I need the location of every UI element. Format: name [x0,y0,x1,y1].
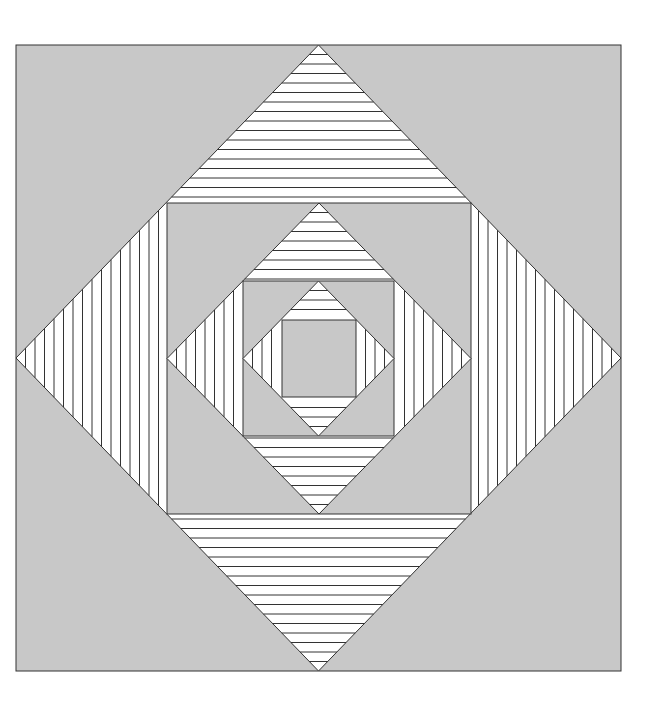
square-innermost [282,320,356,397]
nested-diamond-diagram [0,0,659,710]
